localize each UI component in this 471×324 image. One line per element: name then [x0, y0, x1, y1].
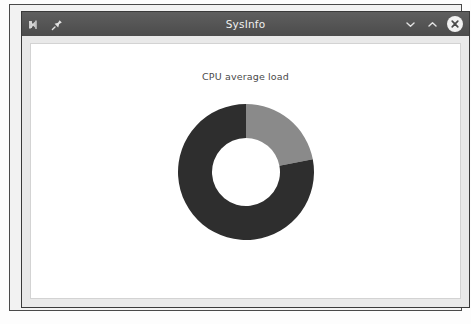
titlebar-left-icons [27, 17, 64, 31]
window-title-bar[interactable]: SysInfo [22, 12, 469, 36]
pin-icon[interactable] [50, 17, 64, 31]
app-logo-icon[interactable] [27, 17, 41, 31]
outer-page-frame: SysInfo [9, 4, 462, 311]
maximize-button[interactable] [425, 17, 440, 32]
application-window: SysInfo [21, 11, 470, 308]
donut-slice-used [246, 104, 313, 166]
desktop-background: SysInfo [0, 0, 471, 324]
window-controls [403, 16, 463, 32]
close-button[interactable] [447, 16, 463, 32]
cpu-average-load-donut-chart [176, 102, 316, 242]
chart-content-pane: CPU average load [30, 43, 461, 299]
minimize-button[interactable] [403, 17, 418, 32]
window-body: CPU average load [22, 36, 469, 307]
chart-title: CPU average load [31, 71, 460, 82]
window-title: SysInfo [22, 12, 469, 36]
